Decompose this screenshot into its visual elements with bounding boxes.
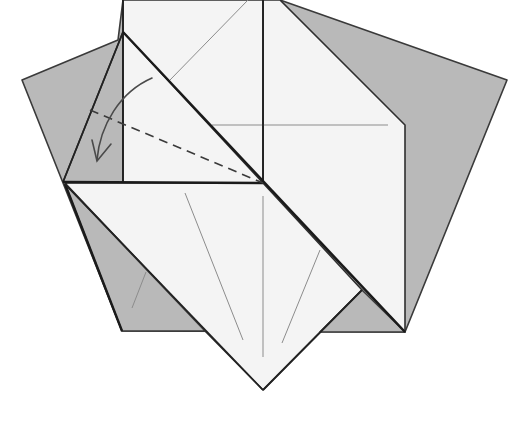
origami-diagram: [0, 0, 509, 424]
edge-horizontal-base: [63, 182, 263, 183]
